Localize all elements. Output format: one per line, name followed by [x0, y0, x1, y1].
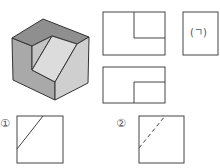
option-1-label: ① — [0, 118, 10, 129]
option-1-figure[interactable] — [17, 116, 63, 163]
diagram-canvas — [0, 0, 220, 168]
isometric-object — [12, 19, 89, 100]
option-2-label: ② — [116, 118, 126, 129]
top-view — [103, 67, 165, 103]
option-2-figure[interactable] — [139, 116, 184, 163]
side-view-label: (ㄱ) — [190, 28, 207, 38]
front-view — [103, 12, 165, 55]
